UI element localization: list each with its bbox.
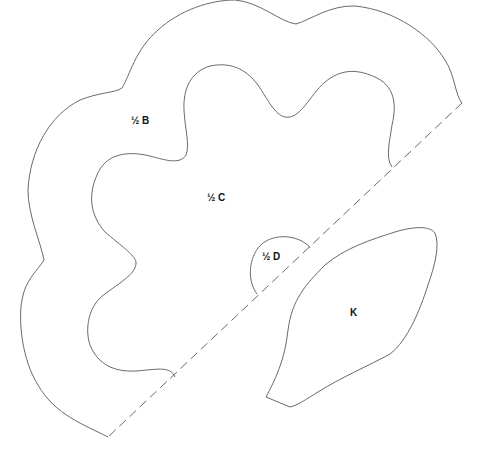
- pattern-svg: [0, 0, 479, 452]
- piece-d-outline: [250, 237, 310, 294]
- piece-c-label: ½ C: [207, 193, 225, 203]
- piece-k-label: K: [350, 308, 357, 318]
- piece-c-outline: [88, 65, 395, 377]
- fold-line: [108, 103, 462, 437]
- piece-b-label: ½ B: [131, 116, 149, 126]
- piece-b-outline: [21, 0, 462, 437]
- piece-d-label: ½ D: [262, 252, 280, 262]
- pattern-canvas: ½ B ½ C ½ D K: [0, 0, 479, 452]
